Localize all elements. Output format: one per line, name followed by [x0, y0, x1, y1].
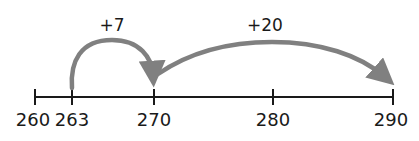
tick-label-260: 260: [16, 109, 50, 130]
tick-label-263: 263: [55, 109, 89, 130]
number-line-diagram: 260 263 270 280 290 +7 +20: [0, 0, 419, 141]
jump-arc-plus-7: [72, 40, 153, 88]
tick-label-270: 270: [137, 109, 171, 130]
jump-label-plus-20: +20: [247, 15, 283, 35]
tick-label-280: 280: [256, 109, 290, 130]
jump-arc-plus-20: [158, 42, 385, 77]
jump-label-plus-7: +7: [99, 15, 124, 35]
tick-label-290: 290: [374, 109, 408, 130]
